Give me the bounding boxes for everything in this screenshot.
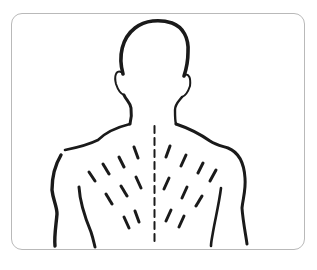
left-torso-outline — [79, 187, 95, 247]
stroke-mark — [121, 186, 127, 196]
stroke-mark — [164, 178, 169, 189]
stroke-mark — [89, 172, 95, 181]
stroke-mark — [196, 196, 202, 206]
right-shoulder-outline — [176, 124, 247, 244]
neck-left-outline — [124, 95, 131, 124]
stroke-mark — [166, 210, 171, 221]
stroke-mark — [106, 194, 112, 204]
left-shoulder-outline — [65, 124, 130, 150]
stroke-mark — [119, 157, 124, 167]
right-stroke-marks — [164, 146, 216, 227]
stroke-mark — [103, 164, 109, 174]
stroke-mark — [198, 163, 203, 173]
stroke-mark — [179, 216, 184, 227]
stroke-mark — [136, 177, 141, 188]
neck-right-outline — [175, 97, 182, 124]
stroke-mark — [124, 217, 129, 228]
right-torso-outline — [211, 188, 221, 246]
right-ear-outline — [182, 75, 190, 97]
head-outline — [121, 21, 188, 76]
stroke-mark — [135, 211, 139, 222]
left-arm-outer-outline — [52, 155, 61, 246]
stroke-mark — [134, 147, 138, 158]
back-illustration — [0, 0, 317, 270]
stroke-mark — [166, 146, 170, 157]
stroke-mark — [182, 187, 187, 198]
stroke-mark — [210, 170, 216, 181]
left-stroke-marks — [89, 147, 141, 228]
stroke-mark — [181, 155, 186, 166]
